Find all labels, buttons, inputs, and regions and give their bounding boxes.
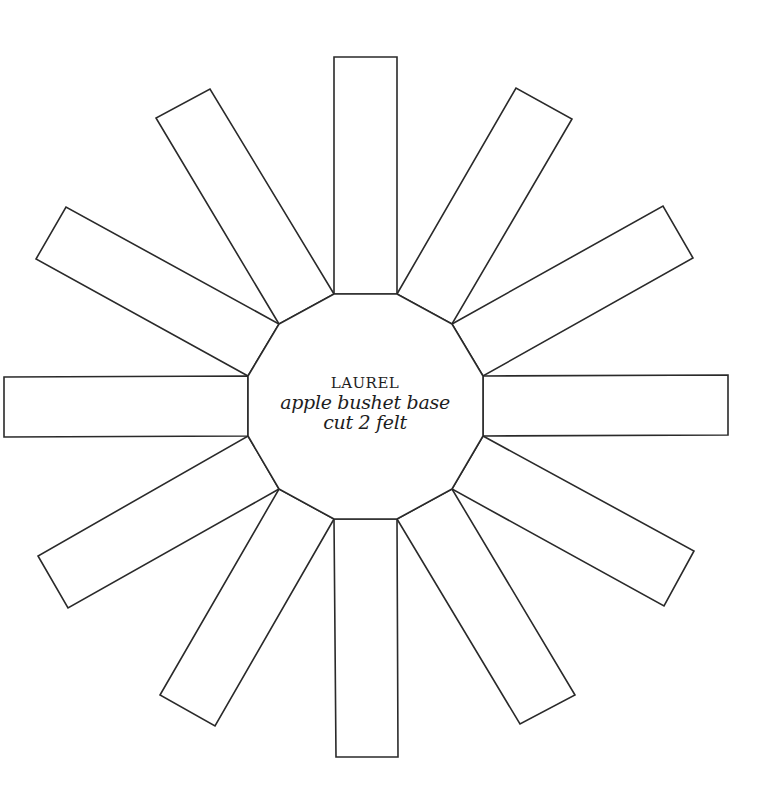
strip-top — [334, 57, 397, 294]
cut-instruction: cut 2 felt — [265, 412, 465, 432]
strip-left — [4, 376, 248, 437]
pattern-name: apple bushet base — [265, 392, 465, 412]
brand-title: LAUREL — [265, 374, 465, 392]
pattern-label: LAUREL apple bushet base cut 2 felt — [265, 374, 465, 432]
strip-right — [483, 375, 728, 436]
strip-bottom — [334, 519, 398, 757]
